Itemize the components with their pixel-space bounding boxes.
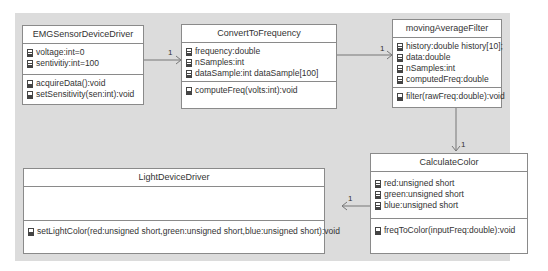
field-icon [397,43,403,51]
attribute-row[interactable]: history:double history[10]; [397,41,497,52]
field-icon [27,60,33,68]
attribute-row[interactable]: voltage:int=0 [27,47,139,58]
class-name: CalculateColor [371,154,527,172]
method-icon [28,228,34,236]
attributes-section: red:unsigned short green:unsigned short … [371,172,527,219]
field-icon [397,54,403,62]
operations-section: computeFreq(volts:int):void [182,82,336,99]
multiplicity-label: 1 [348,194,352,203]
attribute-row[interactable]: computedFreq:double [397,74,497,85]
field-icon [186,59,192,67]
class-convert-to-frequency[interactable]: ConvertToFrequency frequency:double nSam… [181,24,337,109]
attribute-row[interactable]: green:unsigned short [375,189,523,200]
class-name: EMGSensorDeviceDriver [23,26,143,44]
operations-section: setLightColor(red:unsigned short,green:u… [24,221,324,240]
attributes-section [24,187,324,221]
field-icon [186,70,192,78]
multiplicity-label: 1 [380,44,384,53]
operation-row[interactable]: computeFreq(volts:int):void [186,85,332,96]
method-icon [27,91,33,99]
field-icon [375,202,381,210]
field-icon [397,65,403,73]
field-icon [375,180,381,188]
attribute-row[interactable]: frequency:double [186,46,332,57]
field-icon [27,49,33,57]
multiplicity-label: 1 [168,48,172,57]
attributes-section: voltage:int=0 sentivitiy:int=100 [23,44,143,75]
operations-section: filter(rawFreq:double):void [393,88,501,105]
field-icon [186,48,192,56]
method-icon [397,93,403,101]
attribute-row[interactable]: dataSample:int dataSample[100] [186,68,332,79]
class-emg-sensor-device-driver[interactable]: EMGSensorDeviceDriver voltage:int=0 sent… [22,25,144,105]
attribute-row[interactable]: data:double [397,52,497,63]
operations-section: freqToColor(inputFreq:double):void [371,219,527,239]
attribute-row[interactable]: nSamples:int [186,57,332,68]
attributes-section: history:double history[10]; data:double … [393,38,501,88]
class-name: LightDeviceDriver [24,169,324,187]
attribute-row[interactable]: nSamples:int [397,63,497,74]
operation-row[interactable]: filter(rawFreq:double):void [397,91,497,102]
attribute-row[interactable]: blue:unsigned short [375,200,523,211]
operation-row[interactable]: setLightColor(red:unsigned short,green:u… [28,226,320,237]
multiplicity-label: 1 [461,140,465,149]
method-icon [186,87,192,95]
class-calculate-color[interactable]: CalculateColor red:unsigned short green:… [370,153,528,254]
field-icon [375,191,381,199]
operation-row[interactable]: setSensitivity(sen:int):void [27,89,139,100]
class-light-device-driver[interactable]: LightDeviceDriver setLightColor(red:unsi… [23,168,325,254]
attributes-section: frequency:double nSamples:int dataSample… [182,43,336,82]
class-name: ConvertToFrequency [182,25,336,43]
method-icon [27,80,33,88]
operation-row[interactable]: acquireData():void [27,78,139,89]
field-icon [397,76,403,84]
attribute-row[interactable]: sentivitiy:int=100 [27,58,139,69]
method-icon [375,227,381,235]
class-name: movingAverageFilter [393,20,501,38]
class-moving-average-filter[interactable]: movingAverageFilter history:double histo… [392,19,502,108]
operations-section: acquireData():void setSensitivity(sen:in… [23,75,143,103]
attribute-row[interactable]: red:unsigned short [375,178,523,189]
operation-row[interactable]: freqToColor(inputFreq:double):void [375,225,523,236]
